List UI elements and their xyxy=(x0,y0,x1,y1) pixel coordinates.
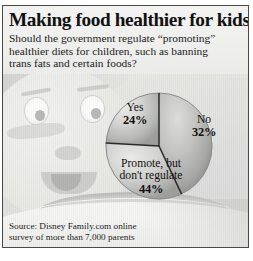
subtitle-line-1: Should the government regulate “promotin… xyxy=(9,32,215,44)
source-line-1: Source: Disney Family.com online xyxy=(9,221,137,231)
page-title: Making food healthier for kids xyxy=(9,9,240,30)
header: Making food healthier for kids Should th… xyxy=(3,6,248,74)
source-note: Source: Disney Family.com online survey … xyxy=(9,221,137,242)
page-subtitle: Should the government regulate “promotin… xyxy=(9,32,242,70)
subtitle-line-3: trans fats and certain foods? xyxy=(9,57,137,69)
subtitle-line-2: healthier diets for children, such as ba… xyxy=(9,45,208,57)
infographic-panel: Making food healthier for kids Should th… xyxy=(2,5,249,248)
source-line-2: survey of more than 7,000 parents xyxy=(9,232,137,242)
